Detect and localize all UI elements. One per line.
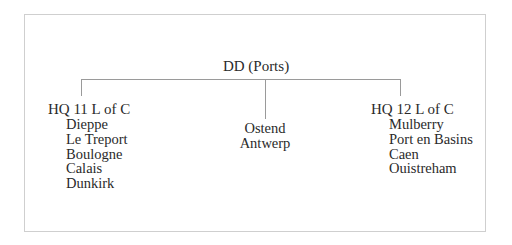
port-boulogne: Boulogne bbox=[66, 147, 130, 162]
connector-horizontal bbox=[81, 79, 401, 80]
branch-label: HQ 11 L of C bbox=[48, 102, 130, 117]
branch-label: HQ 12 L of C bbox=[371, 102, 473, 117]
branch-hq-12-l-of-c: HQ 12 L of C Mulberry Port en Basins Cae… bbox=[371, 102, 473, 176]
port-caen: Caen bbox=[389, 147, 473, 162]
branch-hq-11-l-of-c: HQ 11 L of C Dieppe Le Treport Boulogne … bbox=[48, 102, 130, 191]
port-ouistreham: Ouistreham bbox=[389, 161, 473, 176]
root-node-dd-ports: DD (Ports) bbox=[0, 57, 512, 75]
port-dieppe: Dieppe bbox=[66, 117, 130, 132]
port-ostend: Ostend bbox=[215, 121, 315, 136]
port-antwerp: Antwerp bbox=[215, 136, 315, 151]
port-le-treport: Le Treport bbox=[66, 132, 130, 147]
branch-center: Ostend Antwerp bbox=[215, 121, 315, 151]
connector-right-drop bbox=[400, 79, 401, 96]
port-dunkirk: Dunkirk bbox=[66, 176, 130, 191]
port-calais: Calais bbox=[66, 161, 130, 176]
port-mulberry: Mulberry bbox=[389, 117, 473, 132]
connector-center-drop bbox=[265, 79, 266, 119]
port-list: Dieppe Le Treport Boulogne Calais Dunkir… bbox=[48, 117, 130, 191]
port-port-en-basins: Port en Basins bbox=[389, 132, 473, 147]
port-list: Mulberry Port en Basins Caen Ouistreham bbox=[371, 117, 473, 176]
connector-left-drop bbox=[81, 79, 82, 96]
